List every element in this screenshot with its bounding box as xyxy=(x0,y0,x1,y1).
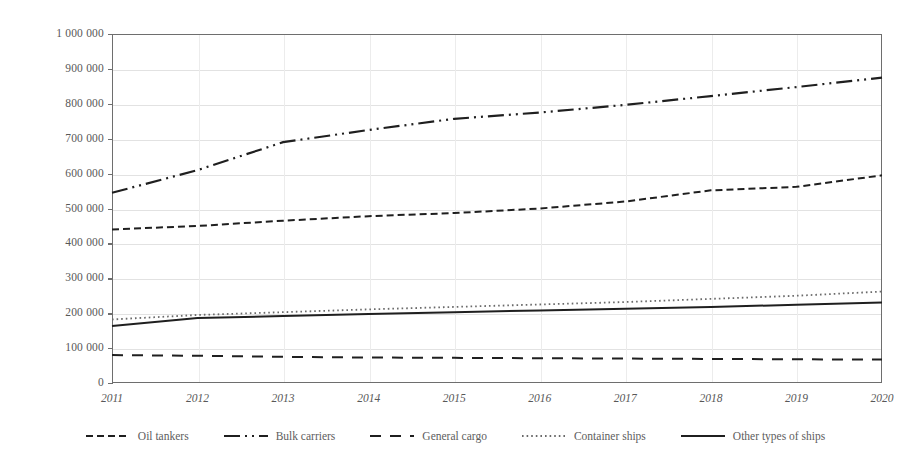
y-tick-label: 300 000 xyxy=(10,271,104,283)
y-tick-label: 200 000 xyxy=(10,306,104,318)
line-chart: 0100 000200 000300 000400 000500 000600 … xyxy=(0,0,910,466)
dashed-line-icon xyxy=(85,430,131,442)
y-tick-label: 700 000 xyxy=(10,132,104,144)
legend-label: Container ships xyxy=(574,430,646,442)
series-layer xyxy=(112,34,882,383)
x-tick-label: 2015 xyxy=(443,392,466,404)
y-tick-label: 0 xyxy=(10,376,104,388)
y-tick-mark xyxy=(108,383,113,384)
y-tick-label: 600 000 xyxy=(10,167,104,179)
x-tick-label: 2011 xyxy=(101,392,123,404)
legend-item[interactable]: Oil tankers xyxy=(85,430,189,442)
dash-dot-dot-line-icon xyxy=(223,430,269,442)
y-tick-label: 1 000 000 xyxy=(10,27,104,39)
legend-label: Other types of ships xyxy=(733,430,825,442)
y-tick-label: 800 000 xyxy=(10,97,104,109)
chart-legend: Oil tankersBulk carriersGeneral cargoCon… xyxy=(0,430,910,442)
legend-item[interactable]: General cargo xyxy=(369,430,487,442)
y-tick-label: 400 000 xyxy=(10,236,104,248)
series-line xyxy=(112,175,882,229)
series-line xyxy=(112,78,882,193)
x-tick-label: 2017 xyxy=(614,392,637,404)
legend-label: Bulk carriers xyxy=(276,430,336,442)
legend-label: General cargo xyxy=(422,430,487,442)
series-line xyxy=(112,355,882,360)
x-tick-label: 2012 xyxy=(186,392,209,404)
x-tick-label: 2019 xyxy=(785,392,808,404)
legend-label: Oil tankers xyxy=(138,430,189,442)
x-tick-label: 2016 xyxy=(528,392,551,404)
y-tick-label: 500 000 xyxy=(10,202,104,214)
legend-item[interactable]: Bulk carriers xyxy=(223,430,336,442)
dotted-line-icon xyxy=(521,430,567,442)
y-tick-label: 100 000 xyxy=(10,341,104,353)
x-tick-label: 2013 xyxy=(272,392,295,404)
y-tick-label: 900 000 xyxy=(10,62,104,74)
legend-item[interactable]: Container ships xyxy=(521,430,646,442)
legend-item[interactable]: Other types of ships xyxy=(680,430,825,442)
long-dash-line-icon xyxy=(369,430,415,442)
x-tick-label: 2014 xyxy=(357,392,380,404)
x-tick-label: 2020 xyxy=(871,392,894,404)
solid-line-icon xyxy=(680,430,726,442)
x-tick-label: 2018 xyxy=(699,392,722,404)
